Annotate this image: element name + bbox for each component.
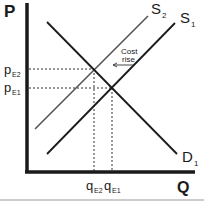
price-label-pe1: p E1 (4, 80, 21, 96)
svg-text:p: p (4, 62, 11, 77)
price-label-pe2: p E2 (4, 62, 21, 78)
cost-rise-line2: rise (122, 55, 135, 64)
equilibrium-guides (29, 69, 112, 171)
svg-text:E2: E2 (12, 71, 21, 78)
svg-text:2: 2 (162, 11, 167, 20)
quantity-label-qe1: q E1 (104, 178, 121, 194)
supply-curve-s2 (35, 16, 148, 129)
svg-text:E2: E2 (94, 187, 103, 194)
supply-demand-diagram: Cost rise P Q S 2 S 1 D 1 p E2 p E1 q E2… (0, 0, 204, 203)
svg-text:E1: E1 (112, 187, 121, 194)
svg-text:q: q (104, 178, 111, 193)
svg-text:E1: E1 (12, 89, 21, 96)
y-axis-label: P (4, 2, 15, 21)
d1-label: D 1 (182, 148, 199, 168)
quantity-label-qe2: q E2 (86, 178, 103, 194)
svg-text:1: 1 (194, 159, 199, 168)
x-axis-label: Q (177, 179, 189, 196)
s1-label: S 1 (180, 9, 196, 29)
svg-text:q: q (86, 178, 93, 193)
svg-text:p: p (4, 80, 11, 95)
svg-text:D: D (182, 148, 193, 165)
svg-text:S: S (151, 0, 161, 17)
svg-text:S: S (180, 9, 190, 26)
s2-label: S 2 (151, 0, 167, 20)
svg-text:1: 1 (191, 20, 196, 29)
